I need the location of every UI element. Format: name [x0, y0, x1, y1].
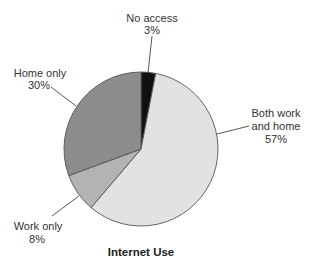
pie-slices	[64, 72, 218, 226]
label-home-only-value: 30%	[28, 79, 50, 91]
leader-home-only	[51, 87, 76, 106]
label-work-only-value: 8%	[29, 233, 45, 245]
label-no-access-name: No access	[126, 12, 178, 24]
label-home-only-name: Home only	[14, 67, 67, 79]
label-both-value: 57%	[265, 133, 287, 145]
label-work-only-name: Work only	[14, 220, 63, 232]
label-both-line2: and home	[252, 120, 301, 132]
label-no-access-value: 3%	[144, 24, 160, 36]
leader-both	[217, 126, 249, 134]
leader-work-only	[52, 196, 79, 216]
leader-no-access	[148, 36, 152, 73]
pie-chart: No access 3% Home only 30% Both work and…	[0, 0, 309, 265]
label-both-line1: Both work	[252, 107, 301, 119]
chart-title: Internet Use	[108, 246, 174, 258]
